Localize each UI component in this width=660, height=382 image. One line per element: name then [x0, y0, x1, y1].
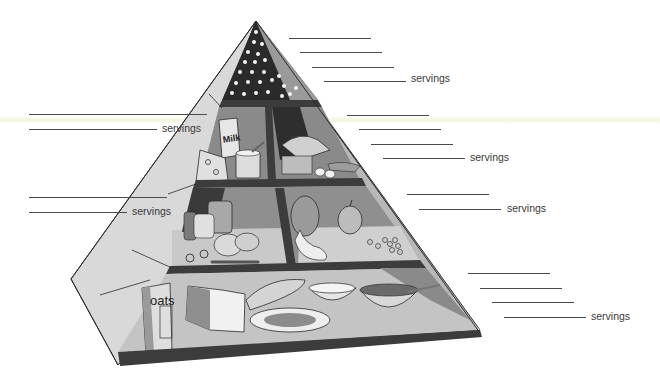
oats-text: oats [150, 293, 175, 308]
servings-label-top: servings [411, 72, 450, 84]
cabbage-icon [194, 214, 214, 238]
servings-label-dairy: servings [162, 122, 201, 134]
blank-line-vegetables-1[interactable] [29, 197, 167, 198]
food-pyramid: Milk oats [0, 0, 660, 382]
blank-line-grains-1[interactable] [468, 273, 550, 274]
egg-icon [315, 168, 325, 176]
blank-line-meat-4[interactable] [383, 158, 465, 159]
servings-label-meat: servings [470, 151, 509, 163]
blank-line-grains-2[interactable] [480, 288, 562, 289]
blank-line-grains-4[interactable] [504, 317, 586, 318]
blank-line-top-4[interactable] [324, 81, 406, 82]
servings-label-vegetables: servings [132, 205, 171, 217]
apple-icon [338, 206, 362, 234]
blank-line-dairy-1[interactable] [29, 114, 207, 115]
blank-line-fruits-2[interactable] [419, 209, 501, 210]
nuts-basket-icon [282, 156, 312, 174]
blank-line-dairy-2[interactable] [29, 129, 157, 130]
blank-line-top-1[interactable] [289, 38, 371, 39]
blank-line-meat-1[interactable] [347, 115, 429, 116]
blank-line-top-2[interactable] [300, 52, 382, 53]
blank-line-top-3[interactable] [312, 67, 394, 68]
blank-line-meat-3[interactable] [371, 144, 453, 145]
servings-label-fruits: servings [507, 202, 546, 214]
watermelon-icon [291, 196, 319, 236]
shelf-1 [219, 100, 322, 107]
blank-line-fruits-1[interactable] [407, 194, 489, 195]
blank-line-meat-2[interactable] [359, 129, 441, 130]
blank-line-grains-3[interactable] [492, 302, 574, 303]
squash-icon [235, 233, 259, 251]
servings-label-grains: servings [591, 310, 630, 322]
blank-line-vegetables-2[interactable] [29, 212, 127, 213]
